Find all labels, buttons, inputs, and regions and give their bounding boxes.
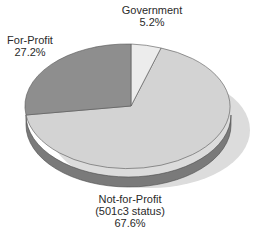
- label-government-name: Government: [108, 4, 196, 16]
- label-government: Government 5.2%: [108, 4, 196, 28]
- label-for-profit-pct: 27.2%: [0, 46, 60, 58]
- label-not-for-profit: Not-for-Profit (501c3 status) 67.6%: [80, 193, 180, 229]
- label-government-pct: 5.2%: [108, 16, 196, 28]
- label-not-for-profit-pct: 67.6%: [80, 217, 180, 229]
- label-not-for-profit-name: Not-for-Profit: [80, 193, 180, 205]
- label-for-profit-name: For-Profit: [0, 34, 60, 46]
- label-not-for-profit-status: (501c3 status): [80, 205, 180, 217]
- label-for-profit: For-Profit 27.2%: [0, 34, 60, 58]
